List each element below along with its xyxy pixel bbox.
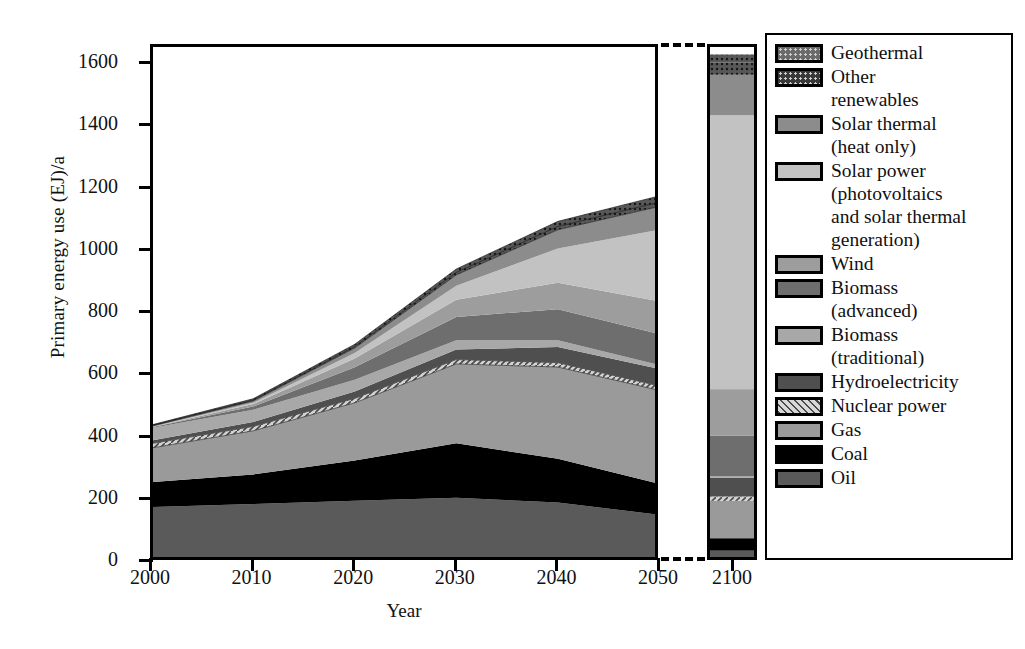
area-layer-2100: [710, 389, 754, 436]
legend-label-line: Hydroelectricity: [831, 370, 959, 393]
y-tick-label: 200: [56, 487, 118, 507]
legend-swatch-icon: [775, 469, 823, 488]
legend-label: Oil: [831, 466, 856, 489]
area-layer-2100: [710, 551, 754, 557]
main-plot-clip: [153, 47, 655, 557]
main-plot-area: [150, 44, 658, 560]
stacked-area-2100: [710, 47, 754, 557]
legend-item[interactable]: Biomass(traditional): [775, 323, 1005, 369]
legend-label-line: Other: [831, 65, 919, 88]
legend-item[interactable]: Oil: [775, 466, 1005, 489]
legend-swatch-icon: [775, 326, 823, 345]
legend-label: Solar thermal(heat only): [831, 112, 937, 158]
y-axis-tick-labels: 16001400120010008006004002000: [28, 0, 118, 649]
legend-label-line: Solar thermal: [831, 112, 937, 135]
legend-item[interactable]: Geothermal: [775, 41, 1005, 64]
legend-swatch-icon: [775, 255, 823, 274]
y-tick-label: 800: [56, 300, 118, 320]
area-layer-2100: [710, 497, 754, 501]
legend-swatch-icon: [775, 397, 823, 416]
area-layer-2100: [710, 62, 754, 74]
stacked-area-main: [153, 47, 655, 557]
legend-label-line: Biomass: [831, 323, 924, 346]
legend-item[interactable]: Hydroelectricity: [775, 370, 1005, 393]
legend-label: Coal: [831, 442, 868, 465]
legend-item[interactable]: Nuclear power: [775, 394, 1005, 417]
legend-swatch-icon: [775, 445, 823, 464]
legend-label-line: (advanced): [831, 299, 918, 322]
legend-label: Hydroelectricity: [831, 370, 959, 393]
legend-label: Otherrenewables: [831, 65, 919, 111]
legend-item[interactable]: Gas: [775, 418, 1005, 441]
legend-label: Wind: [831, 252, 874, 275]
y-tick-label: 1400: [56, 113, 118, 133]
figure-root: Primary energy use (EJ)/a Year 160014001…: [0, 0, 1025, 649]
legend-label-line: Solar power: [831, 159, 966, 182]
legend-label-line: Coal: [831, 442, 868, 465]
area-layer-2100: [710, 55, 754, 63]
area-layer-2100: [710, 478, 754, 497]
y-tick-label: 600: [56, 362, 118, 382]
legend-label-line: renewables: [831, 88, 919, 111]
area-layer-2100: [710, 75, 754, 115]
y-tick-label: 0: [56, 549, 118, 569]
legend-label-line: Biomass: [831, 276, 918, 299]
legend-item[interactable]: Wind: [775, 252, 1005, 275]
area-layer-2100: [710, 115, 754, 389]
legend-swatch-icon: [775, 68, 823, 87]
legend-label: Biomass(traditional): [831, 323, 924, 369]
legend-label-line: Nuclear power: [831, 394, 946, 417]
area-layer-2100: [710, 476, 754, 478]
legend-item[interactable]: Solar power(photovoltaicsand solar therm…: [775, 159, 1005, 251]
legend-swatch-icon: [775, 162, 823, 181]
legend-swatch-icon: [775, 373, 823, 392]
legend-item[interactable]: Otherrenewables: [775, 65, 1005, 111]
legend-label-line: Oil: [831, 466, 856, 489]
year-2100-panel: [707, 44, 757, 560]
area-layer-2100: [710, 501, 754, 538]
year-2100-clip: [710, 47, 754, 557]
x-axis-title: Year: [150, 600, 658, 622]
legend-label-line: Wind: [831, 252, 874, 275]
legend-swatch-icon: [775, 421, 823, 440]
legend-label: Solar power(photovoltaicsand solar therm…: [831, 159, 966, 251]
area-layer-2100: [710, 538, 754, 550]
legend-label: Geothermal: [831, 41, 923, 64]
legend-label-line: and solar thermal: [831, 205, 966, 228]
axis-break-bottom: [661, 557, 705, 561]
legend-label: Nuclear power: [831, 394, 946, 417]
legend-box: GeothermalOtherrenewablesSolar thermal(h…: [765, 33, 1013, 560]
legend-item[interactable]: Solar thermal(heat only): [775, 112, 1005, 158]
y-tick-label: 400: [56, 425, 118, 445]
legend-swatch-icon: [775, 279, 823, 298]
y-tick-label: 1000: [56, 238, 118, 258]
area-layer: [153, 498, 655, 557]
legend-item[interactable]: Biomass(advanced): [775, 276, 1005, 322]
legend-label-line: (photovoltaics: [831, 182, 966, 205]
legend-swatch-icon: [775, 115, 823, 134]
legend-label-line: (heat only): [831, 135, 937, 158]
legend-label-line: generation): [831, 228, 966, 251]
legend-label: Gas: [831, 418, 861, 441]
y-tick-label: 1200: [56, 176, 118, 196]
y-tick-label: 1600: [56, 51, 118, 71]
legend-label: Biomass(advanced): [831, 276, 918, 322]
axis-break-top: [661, 43, 705, 47]
legend-label-line: Gas: [831, 418, 861, 441]
legend-label-line: Geothermal: [831, 41, 923, 64]
legend-label-line: (traditional): [831, 346, 924, 369]
area-layer-2100: [710, 436, 754, 476]
legend-swatch-icon: [775, 44, 823, 63]
legend-item[interactable]: Coal: [775, 442, 1005, 465]
